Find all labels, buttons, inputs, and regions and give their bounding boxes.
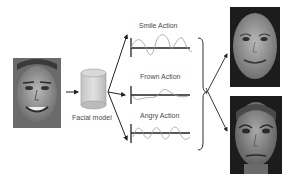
frown-action-label: Frown Action — [140, 73, 180, 80]
output-face-angry — [230, 96, 282, 174]
cylinder-icon — [81, 69, 106, 109]
fan-arrows — [108, 35, 127, 140]
smile-action-label: Smile Action — [139, 22, 178, 29]
input-face-photo — [13, 58, 61, 128]
angry-action-label: Angry Action — [140, 112, 179, 119]
bracket — [198, 38, 207, 150]
diagram-canvas: Smile Action Frown Action Angry Action F… — [0, 0, 296, 181]
smile-action-wave — [131, 35, 192, 57]
output-arrows — [206, 54, 227, 131]
frown-action-wave — [131, 86, 190, 104]
output-face-smile — [230, 7, 280, 87]
angry-action-wave — [131, 124, 190, 143]
facial-model-label: Facial model — [72, 114, 112, 121]
